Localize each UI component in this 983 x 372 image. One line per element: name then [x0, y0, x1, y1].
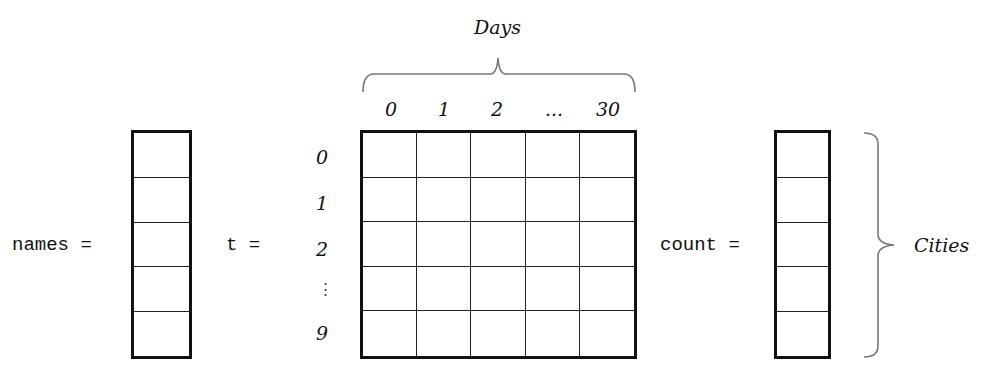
count-label: count = — [660, 234, 740, 256]
row-tick: 2 — [316, 238, 328, 260]
col-tick: 1 — [429, 98, 459, 120]
matrix-cell — [417, 222, 471, 267]
array-cell — [134, 222, 189, 267]
matrix-cell — [526, 133, 580, 178]
matrix-cell — [363, 222, 417, 267]
matrix-cell — [417, 267, 471, 312]
array-cell — [777, 133, 828, 177]
matrix-cell — [363, 267, 417, 312]
t-matrix — [360, 130, 637, 359]
array-cell — [777, 311, 828, 356]
array-cell — [134, 266, 189, 311]
row-tick: ⋮ — [318, 280, 333, 298]
cities-brace-icon — [860, 130, 906, 360]
matrix-cell — [580, 133, 634, 178]
matrix-cell — [417, 133, 471, 178]
array-cell — [777, 222, 828, 267]
matrix-cell — [526, 222, 580, 267]
col-tick: ... — [534, 98, 574, 120]
names-label: names = — [12, 234, 92, 256]
matrix-cell — [471, 222, 525, 267]
array-cell — [134, 311, 189, 356]
cities-title: Cities — [914, 234, 969, 256]
days-title: Days — [474, 16, 521, 38]
matrix-cell — [471, 311, 525, 356]
matrix-cell — [363, 178, 417, 223]
array-cell — [134, 177, 189, 222]
matrix-cell — [580, 178, 634, 223]
matrix-cell — [526, 267, 580, 312]
row-tick: 9 — [316, 322, 328, 344]
matrix-cell — [526, 311, 580, 356]
names-array — [131, 130, 192, 359]
matrix-cell — [363, 311, 417, 356]
matrix-cell — [580, 222, 634, 267]
matrix-cell — [471, 133, 525, 178]
col-tick: 30 — [588, 98, 628, 120]
count-array — [774, 130, 831, 359]
array-cell — [777, 177, 828, 222]
col-tick: 0 — [376, 98, 406, 120]
matrix-cell — [471, 267, 525, 312]
days-brace-icon — [360, 52, 640, 94]
matrix-cell — [417, 311, 471, 356]
matrix-cell — [526, 178, 580, 223]
row-tick: 0 — [316, 146, 328, 168]
row-tick: 1 — [316, 192, 328, 214]
matrix-cell — [363, 133, 417, 178]
col-tick: 2 — [482, 98, 512, 120]
matrix-cell — [580, 311, 634, 356]
array-cell — [134, 133, 189, 177]
matrix-cell — [471, 178, 525, 223]
t-label: t = — [226, 234, 260, 256]
matrix-cell — [417, 178, 471, 223]
matrix-cell — [580, 267, 634, 312]
array-cell — [777, 266, 828, 311]
